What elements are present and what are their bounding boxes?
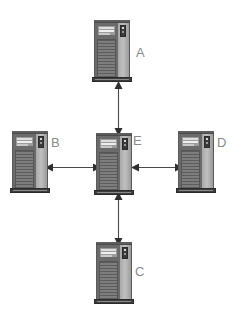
drive-slot [17,144,28,146]
drive-slot [99,27,114,29]
drive-bay-bezel [181,136,200,147]
connection-a-e [114,81,123,136]
power-indicator-module [120,25,126,37]
power-indicator-module [38,136,44,148]
drive-slot [101,252,116,254]
tower-front-panel [13,134,36,192]
drive-bay-bezel [15,136,34,147]
node-label-b: B [51,136,60,149]
drive-slot [183,138,198,140]
status-led-icon [40,138,42,140]
drive-slot [17,138,32,140]
drive-bay-bezel [97,25,116,36]
ventilation-grille [99,152,118,191]
node-label-d: D [217,136,227,149]
status-led-icon [206,138,208,140]
drive-slot [101,249,116,251]
status-led-icon [124,144,126,146]
power-indicator-module [122,138,128,150]
status-led-icon [40,142,42,144]
tower-base [176,188,216,193]
ventilation-grille [15,150,34,189]
status-led-icon [124,253,126,255]
drive-slot [101,255,112,257]
node-label-c: C [135,265,145,278]
tower-base [92,77,132,82]
tower-front-panel [95,23,118,81]
server-tower-a[interactable] [94,20,130,82]
power-indicator-module [204,136,210,148]
drive-bay-bezel [99,247,118,258]
server-tower-d[interactable] [178,131,214,193]
node-label-e: E [133,134,142,147]
power-indicator-module [122,247,128,259]
drive-slot [101,143,116,145]
connection-e-d [131,163,183,172]
ventilation-grille [99,261,118,300]
drive-slot [183,144,194,146]
tower-front-panel [97,245,120,303]
tower-front-panel [97,136,120,194]
status-led-icon [122,27,124,29]
connection-c-e [114,192,123,246]
drive-slot [101,140,116,142]
server-tower-e[interactable] [96,133,132,195]
status-led-icon [122,31,124,33]
server-tower-b[interactable] [12,131,48,193]
tower-front-panel [179,134,202,192]
drive-slot [101,146,112,148]
drive-slot [183,141,198,143]
status-led-icon [124,249,126,251]
status-led-icon [206,142,208,144]
tower-base [94,190,134,195]
drive-slot [17,141,32,143]
tower-base [94,299,134,304]
status-led-icon [124,140,126,142]
tower-base [10,188,50,193]
drive-slot [99,33,110,35]
node-label-a: A [136,46,145,59]
server-tower-c[interactable] [96,242,132,304]
diagram-canvas: A B E D C [0,0,240,318]
drive-bay-bezel [99,138,118,149]
ventilation-grille [181,150,200,189]
ventilation-grille [97,39,116,78]
drive-slot [99,30,114,32]
connection-b-e [45,163,101,172]
